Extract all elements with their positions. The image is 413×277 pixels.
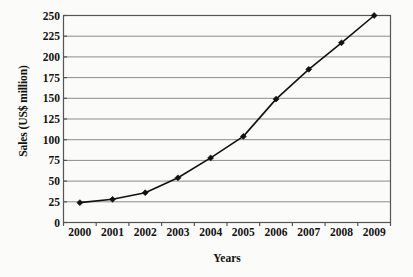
x-axis-title: Years [63,252,391,264]
x-axis-tick-labels: 2000200120022003200420052006200720082009 [0,0,413,277]
sales-line-chart: Sales (US$ million) 02550751001251501752… [0,0,413,277]
x-tick-label-2009: 2009 [352,226,396,238]
